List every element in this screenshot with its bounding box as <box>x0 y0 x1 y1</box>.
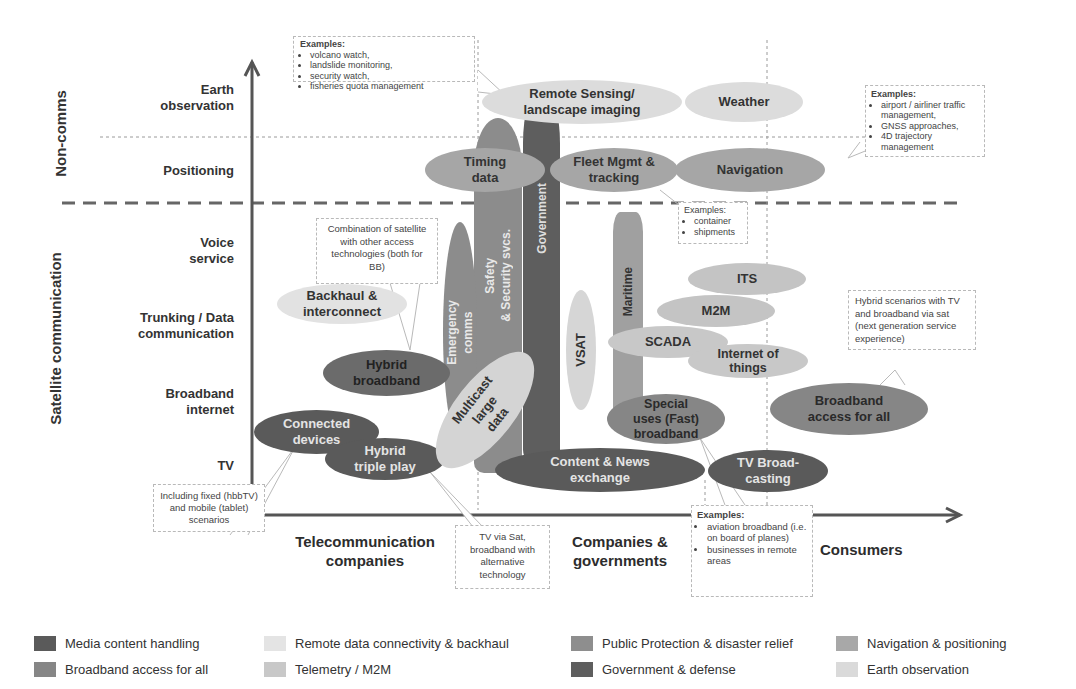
bubble-timing-data: Timing data <box>425 148 545 192</box>
legend-item-remote-data: Remote data connectivity & backhaul <box>264 636 509 651</box>
legend-swatch <box>571 662 593 677</box>
y-label-earth-observation: Earth observation <box>120 82 234 114</box>
bubble-remote-sensing: Remote Sensing/ landscape imaging <box>482 80 682 124</box>
callout-hybrid-scenarios: Hybrid scenarios with TV and broadband v… <box>848 290 976 350</box>
callout-including-fixed-mobile: Including fixed (hbbTV) and mobile (tabl… <box>153 484 265 532</box>
legend-swatch <box>34 662 56 677</box>
bubble-content-news-exchange: Content & News exchange <box>495 448 705 492</box>
x-label-consumers: Consumers <box>820 540 920 559</box>
satellite-services-diagram: Non-comms Satellite communication Earth … <box>0 0 1076 689</box>
x-label-companies-governments: Companies & governments <box>555 532 685 570</box>
bubble-fleet-mgmt: Fleet Mgmt & tracking <box>550 148 678 192</box>
section-label-satellite-communication: Satellite communication <box>47 239 64 439</box>
bubble-backhaul-interconnect: Backhaul & interconnect <box>277 284 407 324</box>
y-label-trunking: Trunking / Data communication <box>110 310 234 342</box>
y-label-tv: TV <box>120 458 234 474</box>
bubble-hybrid-broadband: Hybrid broadband <box>323 350 450 396</box>
bubble-special-uses: Special uses (Fast) broadband <box>607 394 725 444</box>
legend: Media content handling Broadband access … <box>34 636 1074 686</box>
legend-swatch <box>836 662 858 677</box>
callout-combination-access-technologies: Combination of satellite with other acce… <box>316 218 438 284</box>
legend-item-government: Government & defense <box>571 662 736 677</box>
legend-swatch <box>836 636 858 651</box>
legend-item-broadband-access: Broadband access for all <box>34 662 208 677</box>
callout-tv-via-sat: TV via Sat, broadband with alternative t… <box>455 525 550 589</box>
legend-swatch <box>264 662 286 677</box>
bubble-government: Government <box>523 88 560 468</box>
bubble-broadband-access-for-all: Broadband access for all <box>770 383 928 435</box>
legend-item-public-protection: Public Protection & disaster relief <box>571 636 793 651</box>
bubble-hybrid-triple-play: Hybrid triple play <box>325 438 445 480</box>
legend-item-media-content: Media content handling <box>34 636 199 651</box>
legend-swatch <box>571 636 593 651</box>
section-label-non-comms: Non-comms <box>52 84 69 184</box>
y-label-voice-service: Voice service <box>120 235 234 267</box>
y-label-broadband-internet: Broadband internet <box>120 386 234 418</box>
bubble-its: ITS <box>688 263 806 295</box>
callout-earth-observation-examples: Examples: volcano watch, landslide monit… <box>293 36 475 82</box>
legend-swatch <box>34 636 56 651</box>
callout-aviation-examples: Examples: aviation broadband (i.e. on bo… <box>691 505 813 597</box>
bubble-internet-of-things: Internet of things <box>688 344 808 378</box>
bubble-weather: Weather <box>685 82 803 122</box>
callout-fleet-examples: Examples: container shipments <box>678 202 748 244</box>
bubble-vsat: VSAT <box>566 290 596 410</box>
legend-item-navigation-positioning: Navigation & positioning <box>836 636 1006 651</box>
bubble-m2m: M2M <box>657 295 775 327</box>
x-label-telecom: Telecommunication companies <box>270 532 460 570</box>
callout-navigation-examples: Examples: airport / airliner traffic man… <box>865 85 985 157</box>
y-label-positioning: Positioning <box>120 163 234 179</box>
legend-swatch <box>264 636 286 651</box>
legend-item-telemetry: Telemetry / M2M <box>264 662 391 677</box>
bubble-tv-broadcasting: TV Broad- casting <box>708 450 828 492</box>
legend-item-earth-observation: Earth observation <box>836 662 969 677</box>
bubble-navigation: Navigation <box>675 148 825 192</box>
